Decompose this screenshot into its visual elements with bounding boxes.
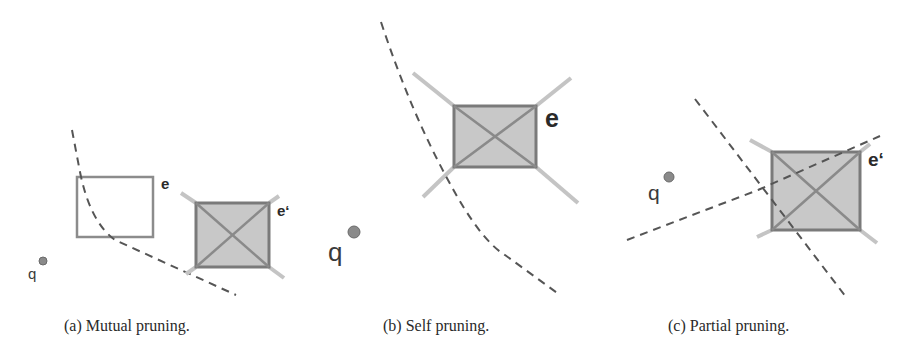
pruned-entry-label: e‘ — [868, 149, 884, 170]
extension-line — [536, 78, 571, 106]
caption-b: (b) Self pruning. — [383, 317, 489, 335]
extension-line — [536, 167, 578, 203]
query-point — [348, 226, 360, 238]
panel-c: q e‘ (c) Partial pruning. — [627, 99, 884, 335]
caption-a: (a) Mutual pruning. — [64, 317, 190, 335]
query-point — [664, 172, 674, 182]
entry-label: e — [545, 104, 559, 132]
entry-label: e — [161, 175, 169, 192]
pruned-entry-label: e‘ — [277, 202, 290, 219]
entry-box-e — [77, 177, 153, 237]
panel-b: q e (b) Self pruning. — [328, 22, 578, 335]
query-label: q — [28, 265, 36, 282]
extension-line — [860, 230, 877, 243]
extension-line — [750, 140, 772, 152]
caption-c: (c) Partial pruning. — [668, 317, 789, 335]
extension-line — [181, 193, 196, 203]
query-label: q — [328, 237, 342, 267]
extension-line — [413, 73, 454, 106]
panel-a: q e e‘ (a) Mutual pruning. — [28, 130, 290, 335]
pruning-figure: q e e‘ (a) Mutual pruning. q e (b) Self … — [0, 0, 920, 354]
extension-line — [269, 267, 284, 278]
query-point — [39, 257, 47, 265]
extension-line — [757, 230, 772, 237]
query-label: q — [648, 181, 660, 204]
